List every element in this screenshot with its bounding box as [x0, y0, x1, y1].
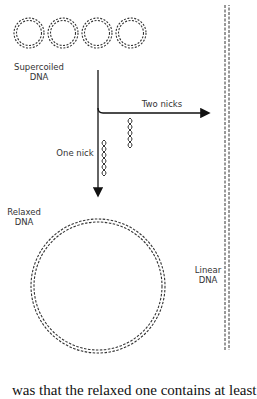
linear-label-line2: DNA — [194, 275, 222, 285]
supercoiled-dna-label: Supercoiled DNA — [14, 62, 64, 82]
supercoiled-label-line1: Supercoiled — [14, 62, 64, 72]
supercoiled-label-line2: DNA — [14, 72, 64, 82]
one-nick-label: One nick — [55, 148, 95, 158]
supercoiled-dna-shape — [14, 18, 146, 48]
relaxed-label-line2: DNA — [6, 217, 42, 227]
nick-fragment-one — [102, 140, 106, 176]
nick-fragment-two — [128, 118, 132, 148]
linear-dna-label: Linear DNA — [194, 265, 222, 285]
relaxed-dna-shape — [31, 219, 165, 353]
relaxed-label-line1: Relaxed — [6, 207, 42, 217]
relaxed-dna-label: Relaxed DNA — [6, 207, 42, 227]
two-nicks-label: Two nicks — [137, 99, 187, 109]
linear-dna-shape — [225, 5, 229, 350]
linear-label-line1: Linear — [194, 265, 222, 275]
caption-text: was that the relaxed one contains at lea… — [12, 382, 257, 399]
